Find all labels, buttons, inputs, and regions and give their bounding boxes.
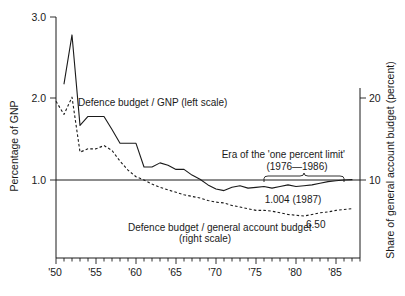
series-dashed-label-line2: (right scale) bbox=[179, 233, 231, 244]
defence-budget-line-chart: 3.0 2.0 1.0 20 10 '50'55'60'65'70'75'80'… bbox=[0, 0, 405, 296]
x-tick-label: '80 bbox=[288, 266, 302, 278]
y-axis-left-ticks: 3.0 2.0 1.0 bbox=[31, 11, 56, 186]
x-axis-tick-labels: '50'55'60'65'70'75'80'85 bbox=[48, 266, 342, 278]
chart-container: 3.0 2.0 1.0 20 10 '50'55'60'65'70'75'80'… bbox=[0, 0, 405, 296]
x-tick-label: '85 bbox=[328, 266, 342, 278]
series-dashed-label-line1: Defence budget / general account budget bbox=[128, 222, 312, 233]
x-tick-label: '70 bbox=[208, 266, 222, 278]
x-axis-ticks bbox=[56, 258, 360, 264]
y-tick-label-1: 1.0 bbox=[31, 174, 46, 186]
era-label-line1: Era of the 'one percent limit' bbox=[222, 149, 345, 160]
y-axis-left-title: Percentage of GNP bbox=[8, 100, 20, 191]
era-label-line2: (1976—1986) bbox=[266, 161, 327, 172]
y-tick-label-2: 2.0 bbox=[31, 92, 46, 104]
dashed-end-value-label: 6.50 bbox=[306, 219, 326, 230]
x-tick-label: '50 bbox=[48, 266, 62, 278]
x-tick-label: '60 bbox=[128, 266, 142, 278]
solid-end-value-label: 1.004 (1987) bbox=[265, 194, 322, 205]
y2-tick-label-20: 20 bbox=[369, 92, 381, 104]
series-solid-label: Defence budget / GNP (left scale) bbox=[78, 97, 227, 108]
x-tick-label: '65 bbox=[168, 266, 182, 278]
one-percent-limit-era-brace bbox=[264, 173, 344, 182]
x-tick-label: '55 bbox=[88, 266, 102, 278]
y-axis-right-ticks: 20 10 bbox=[360, 92, 381, 186]
y2-tick-label-10: 10 bbox=[369, 174, 381, 186]
x-tick-label: '75 bbox=[248, 266, 262, 278]
y-axis-right-title: Share of general account budget (percent… bbox=[384, 61, 396, 258]
y-tick-label-3: 3.0 bbox=[31, 11, 46, 23]
